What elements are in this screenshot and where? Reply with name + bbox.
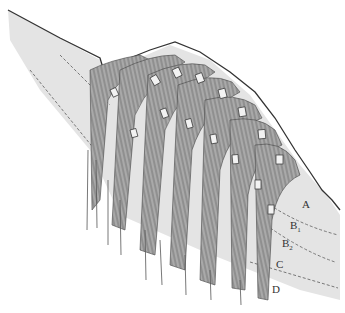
horizon-label-b1: B1	[290, 220, 301, 234]
horizon-label-b2: B2	[282, 238, 293, 252]
horizon-label-d: D	[272, 284, 280, 295]
horizon-label-c: C	[276, 259, 283, 270]
diagram-canvas: A B1 B2 C D	[0, 0, 345, 313]
horizon-label-a: A	[302, 199, 310, 210]
cross-section-drawing	[0, 0, 345, 313]
